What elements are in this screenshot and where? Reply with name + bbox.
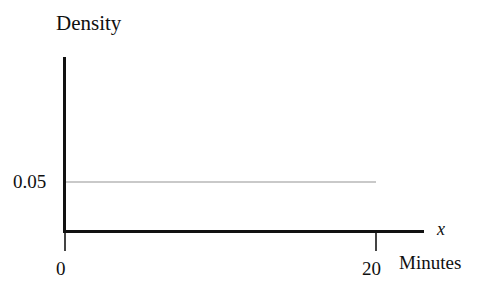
x-axis-tick-20 <box>375 233 377 251</box>
x-axis-variable-symbol: x <box>437 220 445 238</box>
y-axis-origin-tick <box>64 233 66 251</box>
y-axis-tick-label-005: 0.05 <box>13 172 46 191</box>
x-axis-tick-label-0: 0 <box>56 259 66 278</box>
y-axis-line <box>63 57 66 233</box>
density-chart: Density 0.05 0 20 x Minutes <box>0 0 494 295</box>
density-curve-line <box>66 181 376 183</box>
x-axis-line <box>63 230 424 233</box>
y-axis-title: Density <box>56 13 121 34</box>
x-axis-title: Minutes <box>399 253 461 272</box>
x-axis-tick-label-20: 20 <box>362 259 381 278</box>
